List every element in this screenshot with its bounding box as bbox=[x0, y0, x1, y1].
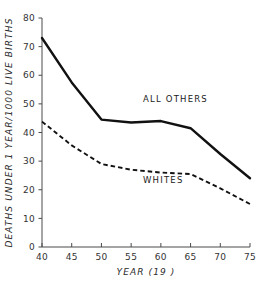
series-line-all-others bbox=[42, 38, 250, 178]
y-tick-label: 0 bbox=[29, 242, 35, 252]
y-tick-label: 70 bbox=[23, 42, 35, 52]
line-chart: 01020304050607080 4045505560657075 ALL O… bbox=[0, 0, 267, 282]
y-axis-ticks: 01020304050607080 bbox=[23, 13, 42, 252]
x-tick-label: 65 bbox=[185, 252, 197, 262]
x-tick-label: 60 bbox=[155, 252, 167, 262]
series-label-all-others: ALL OTHERS bbox=[143, 94, 208, 104]
x-tick-label: 75 bbox=[244, 252, 256, 262]
y-tick-label: 60 bbox=[23, 70, 35, 80]
y-tick-label: 10 bbox=[23, 214, 35, 224]
chart-container: 01020304050607080 4045505560657075 ALL O… bbox=[0, 0, 267, 282]
x-tick-label: 55 bbox=[125, 252, 137, 262]
x-tick-label: 70 bbox=[214, 252, 226, 262]
x-axis-title: YEAR (19 ) bbox=[117, 267, 176, 277]
y-tick-label: 30 bbox=[23, 156, 35, 166]
y-tick-label: 20 bbox=[23, 185, 35, 195]
series-label-whites: WHITES bbox=[143, 175, 183, 185]
series-line-whites bbox=[42, 122, 250, 204]
x-axis-ticks: 4045505560657075 bbox=[36, 243, 256, 262]
x-tick-label: 50 bbox=[95, 252, 107, 262]
y-tick-label: 40 bbox=[23, 128, 35, 138]
series-annotations-group: ALL OTHERSWHITES bbox=[143, 94, 208, 184]
y-tick-label: 80 bbox=[23, 13, 35, 23]
x-tick-label: 40 bbox=[36, 252, 48, 262]
y-axis-title: DEATHS UNDER 1 YEAR/1000 LIVE BIRTHS bbox=[4, 17, 14, 247]
x-tick-label: 45 bbox=[66, 252, 78, 262]
y-tick-label: 50 bbox=[23, 99, 35, 109]
